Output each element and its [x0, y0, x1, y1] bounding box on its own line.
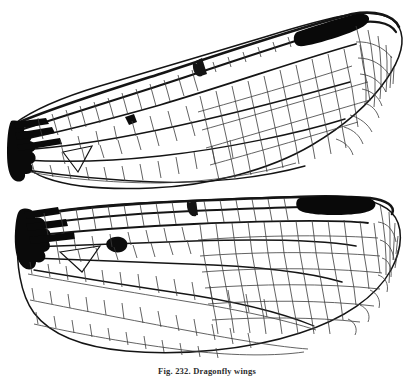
dragonfly-wings-illustration: [0, 0, 414, 376]
figure-caption: Fig. 232. Dragonfly wings: [0, 366, 414, 376]
hindwing-pterostigma: [296, 196, 375, 215]
figure-plate: [0, 0, 414, 376]
